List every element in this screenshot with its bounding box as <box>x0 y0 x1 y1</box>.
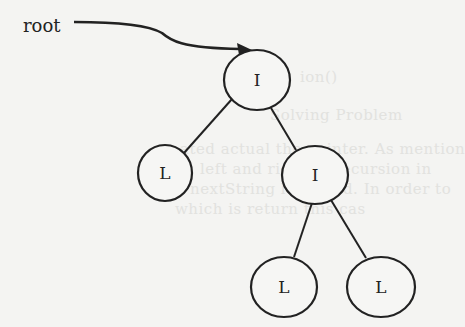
tree-node-right-right-leaf: L <box>347 257 415 317</box>
root-pointer-arrow <box>74 22 252 55</box>
edge-root-right <box>271 108 296 150</box>
node-label: I <box>312 165 319 185</box>
tree-node-left-leaf: L <box>138 145 192 201</box>
edge-root-left <box>184 99 232 153</box>
node-label: I <box>254 70 261 90</box>
node-label: L <box>159 163 170 183</box>
tree-node-root: I <box>224 50 290 110</box>
tree-node-right-left-leaf: L <box>251 257 317 317</box>
node-label: L <box>278 277 289 297</box>
tree-node-right-internal: I <box>282 146 348 204</box>
edge-mid-left <box>294 203 312 257</box>
node-label: L <box>375 277 386 297</box>
edge-mid-right <box>331 200 366 258</box>
